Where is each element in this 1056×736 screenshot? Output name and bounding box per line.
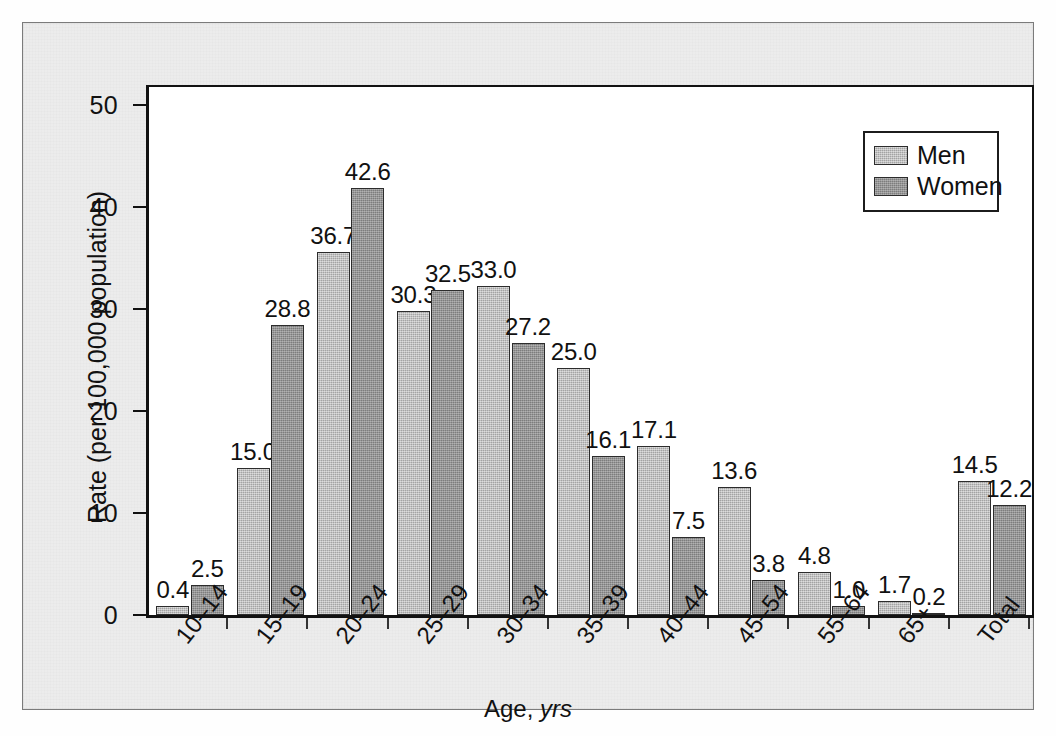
bar-men-5 [557,368,590,615]
bar-value-label: 28.8 [258,295,317,323]
y-tick-mark [133,410,146,412]
x-tick-mark [948,618,950,629]
x-axis-title: Age, yrs [23,695,1033,723]
legend-label-men: Men [917,143,966,168]
y-tick-label: 40 [43,193,118,222]
bar-women-1 [271,325,304,615]
x-tick-mark [226,618,228,629]
bar-men-1 [237,468,270,615]
y-tick-mark [133,206,146,208]
bar-value-label: 2.5 [178,555,237,583]
x-tick-mark [787,618,789,629]
y-tick-label: 10 [43,499,118,528]
y-tick-label: 0 [43,601,118,630]
bar-men-2 [317,252,350,615]
x-tick-mark [868,618,870,629]
bar-women-4 [512,343,545,615]
bar-women-3 [431,290,464,615]
y-axis-title: Rate (per 100,000 population) [83,191,112,523]
x-tick-mark [707,618,709,629]
legend-label-women: Women [917,174,1003,199]
y-tick-mark [133,512,146,514]
y-tick-mark [133,104,146,106]
x-tick-mark [547,618,549,629]
legend-swatch-women [874,177,908,196]
bar-value-label: 25.0 [544,338,603,366]
y-tick-label: 50 [43,91,118,120]
bar-value-label: 12.2 [980,475,1039,503]
x-tick-mark [387,618,389,629]
legend: Men Women [863,131,999,212]
y-tick-label: 20 [43,397,118,426]
bar-women-2 [351,188,384,615]
bar-value-label: 17.1 [624,416,683,444]
x-tick-mark [627,618,629,629]
legend-entry-women: Women [874,171,988,202]
figure-page: Rate (per 100,000 population) 0102030405… [0,0,1056,736]
y-tick-label: 30 [43,295,118,324]
bar-value-label: 0.2 [899,583,958,611]
x-tick-mark [467,618,469,629]
figure-frame: Rate (per 100,000 population) 0102030405… [22,22,1034,710]
bar-value-label: 4.8 [785,542,844,570]
y-tick-mark [133,614,146,616]
bar-value-label: 33.0 [464,256,523,284]
bar-value-label: 7.5 [659,507,718,535]
bar-value-label: 42.6 [338,158,397,186]
legend-swatch-men [874,146,908,165]
legend-entry-men: Men [874,140,988,171]
bar-value-label: 27.2 [499,313,558,341]
y-tick-mark [133,308,146,310]
bar-men-3 [397,311,430,615]
bar-value-label: 13.6 [705,457,764,485]
x-tick-mark [306,618,308,629]
x-tick-mark [1028,618,1030,629]
